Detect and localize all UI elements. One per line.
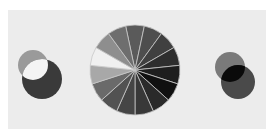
left-venn-diagram [18, 50, 62, 99]
radial-pie [90, 25, 180, 115]
right-venn-diagram [215, 52, 255, 99]
figure-graphic [0, 0, 268, 129]
